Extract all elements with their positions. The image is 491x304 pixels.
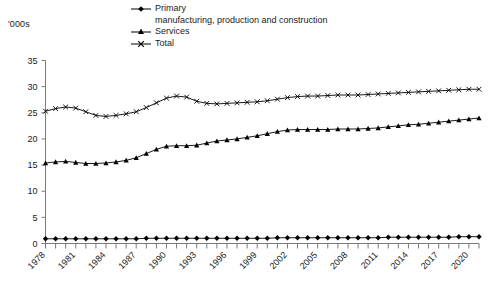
x-axis-tick-label: 2011: [359, 250, 380, 271]
data-point-marker: [174, 236, 179, 241]
y-axis-tick-label: 15: [27, 160, 37, 170]
line-chart-plot: 0510152025303519781981198419871990199319…: [0, 0, 491, 304]
data-point-marker: [315, 235, 320, 240]
data-point-marker: [466, 234, 471, 239]
data-point-marker: [295, 235, 300, 240]
data-point-marker: [396, 235, 401, 240]
x-axis-tick-label: 2008: [328, 250, 349, 271]
data-point-marker: [93, 236, 98, 241]
data-point-marker: [103, 236, 108, 241]
data-point-marker: [255, 236, 260, 241]
data-point-marker: [184, 236, 189, 241]
x-axis-tick-label: 2014: [389, 250, 410, 271]
series-primary: [43, 234, 482, 241]
data-point-marker: [144, 105, 149, 110]
series-line: [46, 237, 480, 239]
data-point-marker: [355, 235, 360, 240]
x-axis-tick-label: 1990: [147, 250, 168, 271]
data-point-marker: [154, 236, 159, 241]
x-axis-tick-label: 1981: [56, 250, 77, 271]
data-point-marker: [285, 235, 290, 240]
data-point-marker: [194, 236, 199, 241]
y-axis-tick-label: 30: [27, 82, 37, 92]
data-point-marker: [83, 109, 88, 114]
x-axis-tick-label: 1996: [207, 250, 228, 271]
data-point-marker: [386, 235, 391, 240]
series-line: [46, 89, 480, 116]
data-point-marker: [335, 235, 340, 240]
y-axis-tick-label: 25: [27, 108, 37, 118]
data-point-marker: [113, 236, 118, 241]
data-point-marker: [144, 236, 149, 241]
x-axis-tick-label: 2002: [268, 250, 289, 271]
data-point-marker: [265, 236, 270, 241]
x-axis-tick-label: 1993: [177, 250, 198, 271]
y-axis-tick-label: 10: [27, 186, 37, 196]
data-point-marker: [416, 235, 421, 240]
series-line: [46, 118, 480, 163]
data-point-marker: [446, 235, 451, 240]
data-point-marker: [73, 236, 78, 241]
data-point-marker: [53, 236, 58, 241]
y-axis-tick-label: 5: [32, 213, 37, 223]
data-point-marker: [123, 236, 128, 241]
data-point-marker: [244, 236, 249, 241]
y-axis-tick-label: 20: [27, 134, 37, 144]
x-axis-tick-label: 1984: [86, 250, 107, 271]
chart-container: '000s Primary manufacturing, production …: [0, 0, 491, 304]
data-point-marker: [456, 234, 461, 239]
data-point-marker: [305, 235, 310, 240]
data-point-marker: [406, 235, 411, 240]
data-point-marker: [426, 235, 431, 240]
x-axis-tick-label: 1999: [237, 250, 258, 271]
data-point-marker: [204, 236, 209, 241]
series-services: [43, 115, 482, 165]
data-point-marker: [375, 235, 380, 240]
data-point-marker: [43, 236, 48, 241]
x-axis-tick-label: 2017: [419, 250, 440, 271]
data-point-marker: [234, 236, 239, 241]
data-point-marker: [476, 234, 481, 239]
data-point-marker: [134, 236, 139, 241]
data-point-marker: [214, 236, 219, 241]
data-point-marker: [154, 100, 159, 105]
data-point-marker: [365, 235, 370, 240]
data-point-marker: [83, 236, 88, 241]
data-point-marker: [325, 235, 330, 240]
data-point-marker: [224, 236, 229, 241]
data-point-marker: [436, 235, 441, 240]
data-point-marker: [345, 235, 350, 240]
series-total: [43, 87, 481, 119]
data-point-marker: [164, 236, 169, 241]
x-axis-tick-label: 2020: [449, 250, 470, 271]
x-axis-tick-label: 2005: [298, 250, 319, 271]
data-point-marker: [275, 235, 280, 240]
data-point-marker: [134, 155, 139, 160]
data-point-marker: [144, 151, 149, 156]
x-axis-tick-label: 1987: [116, 250, 137, 271]
y-axis-tick-label: 35: [27, 56, 37, 66]
data-point-marker: [63, 236, 68, 241]
x-axis-tick-label: 1978: [26, 250, 47, 271]
y-axis-tick-label: 0: [32, 239, 37, 249]
